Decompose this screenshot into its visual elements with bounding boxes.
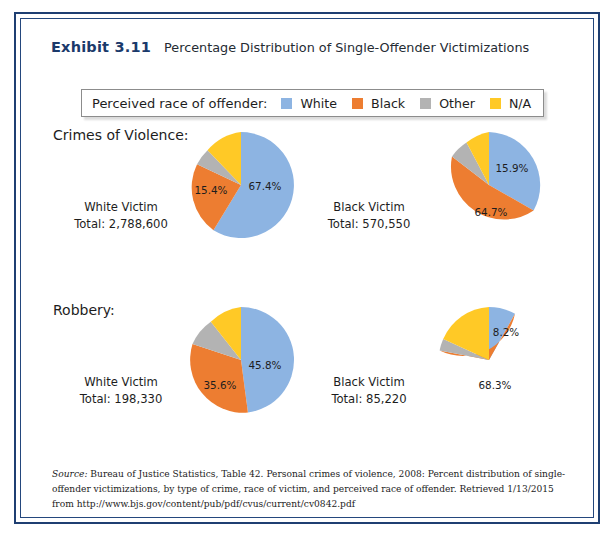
pie-caption-violence-white: White Victim Total: 2,788,600 (51, 199, 191, 233)
legend-label-white: White (300, 96, 337, 111)
pie-caption-violence-black: Black Victim Total: 570,550 (299, 199, 439, 233)
legend-swatch-na-icon (490, 98, 501, 109)
source-note-text: Bureau of Justice Statistics, Table 42. … (52, 469, 565, 509)
pie-svg: 8.2% 68.3% (433, 304, 545, 416)
legend-swatch-white-icon (281, 98, 292, 109)
pie-svg: 45.8% 35.6% (185, 304, 297, 416)
pie-panel-robbery-black-victim: Black Victim Total: 85,220 8.2% 68.3% (299, 344, 559, 464)
pie-caption-total: Total: 85,220 (299, 391, 439, 408)
pie-label-white-pct: 8.2% (493, 326, 520, 338)
legend: Perceived race of offender: White Black … (81, 89, 544, 117)
legend-entry-white: White (281, 96, 337, 111)
exhibit-frame-inner-border: Exhibit 3.11Percentage Distribution of S… (20, 18, 594, 518)
pie-caption-victim: Black Victim (299, 374, 439, 391)
pie-svg: 67.4% 15.4% (185, 129, 297, 241)
pie-label-black-pct: 64.7% (474, 206, 507, 218)
exhibit-title: Exhibit 3.11Percentage Distribution of S… (51, 38, 529, 56)
legend-label-other: Other (439, 96, 475, 111)
pie-label-black-pct: 35.6% (203, 379, 236, 391)
legend-entry-black: Black (352, 96, 405, 111)
pie-svg: 15.9% 64.7% (433, 129, 545, 241)
pie-label-black-pct: 68.3% (478, 379, 511, 391)
pie-chart-violence-white: 67.4% 15.4% (185, 129, 297, 241)
section-heading-robbery: Robbery: (53, 302, 115, 318)
legend-label-na: N/A (509, 96, 531, 111)
legend-entry-other: Other (420, 96, 475, 111)
pie-label-white-pct: 67.4% (248, 180, 281, 192)
pie-label-white-pct: 45.8% (248, 359, 281, 371)
exhibit-number: Exhibit 3.11 (51, 39, 151, 55)
exhibit-title-text: Percentage Distribution of Single-Offend… (164, 40, 529, 55)
pie-panel-violence-white-victim: White Victim Total: 2,788,600 67.4% 15.4… (51, 169, 311, 289)
legend-caption: Perceived race of offender: (92, 96, 267, 111)
pie-caption-total: Total: 2,788,600 (51, 216, 191, 233)
pie-label-white-pct: 15.9% (495, 162, 528, 174)
exhibit-content: Exhibit 3.11Percentage Distribution of S… (21, 19, 593, 517)
legend-entry-na: N/A (490, 96, 531, 111)
pie-caption-victim: Black Victim (299, 199, 439, 216)
legend-swatch-black-icon (352, 98, 363, 109)
pie-caption-total: Total: 198,330 (51, 391, 191, 408)
pie-panel-robbery-white-victim: White Victim Total: 198,330 45.8% 35.6% (51, 344, 311, 464)
exhibit-frame: Exhibit 3.11Percentage Distribution of S… (14, 12, 600, 524)
pie-caption-robbery-black: Black Victim Total: 85,220 (299, 374, 439, 408)
pie-chart-robbery-black: 8.2% 68.3% (433, 304, 545, 416)
pie-chart-robbery-white: 45.8% 35.6% (185, 304, 297, 416)
legend-label-black: Black (371, 96, 405, 111)
pie-caption-victim: White Victim (51, 199, 191, 216)
pie-panel-violence-black-victim: Black Victim Total: 570,550 15.9% 64.7% (299, 169, 559, 289)
section-heading-crimes-of-violence: Crimes of Violence: (53, 127, 189, 143)
pie-caption-total: Total: 570,550 (299, 216, 439, 233)
pie-chart-violence-black: 15.9% 64.7% (433, 129, 545, 241)
source-note: Source: Bureau of Justice Statistics, Ta… (52, 467, 568, 511)
pie-caption-robbery-white: White Victim Total: 198,330 (51, 374, 191, 408)
legend-swatch-other-icon (420, 98, 431, 109)
source-note-label: Source: (52, 469, 87, 479)
pie-label-black-pct: 15.4% (194, 184, 227, 196)
pie-caption-victim: White Victim (51, 374, 191, 391)
